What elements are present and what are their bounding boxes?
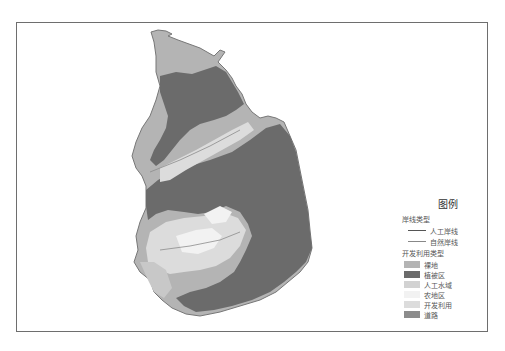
land-use-section-label: 开发利用类型: [402, 248, 488, 258]
map-legend: 图例 岸线类型 人工岸线 自然岸线 开发利用类型 裸地 植被区 人工水域 农地区…: [402, 196, 488, 320]
swatch-icon: [404, 291, 420, 298]
line-sample-icon: [408, 241, 426, 242]
line-sample-icon: [408, 230, 426, 231]
swatch-icon: [404, 311, 420, 318]
legend-item-developed: 开发利用: [404, 300, 488, 309]
swatch-icon: [404, 261, 420, 268]
legend-item-natural-shoreline: 自然岸线: [408, 237, 488, 246]
legend-item-road: 道路: [404, 310, 488, 319]
legend-item-artificial-water: 人工水域: [404, 280, 488, 289]
legend-item-artificial-shoreline: 人工岸线: [408, 226, 488, 235]
swatch-icon: [404, 281, 420, 288]
swatch-icon: [404, 271, 420, 278]
legend-item-farmland: 农地区: [404, 290, 488, 299]
legend-item-bare-land: 裸地: [404, 260, 488, 269]
legend-item-vegetation: 植被区: [404, 270, 488, 279]
legend-title: 图例: [408, 196, 488, 211]
swatch-icon: [404, 301, 420, 308]
shoreline-section-label: 岸线类型: [402, 214, 488, 224]
